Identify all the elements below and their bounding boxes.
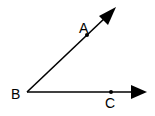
label-a: A <box>79 20 89 36</box>
angle-diagram: A B C <box>0 0 155 116</box>
ray-ba-line <box>27 17 106 92</box>
label-c: C <box>105 95 115 111</box>
point-c-dot <box>109 90 113 94</box>
label-b: B <box>11 86 20 102</box>
ray-bc-arrowhead-icon <box>131 85 147 99</box>
